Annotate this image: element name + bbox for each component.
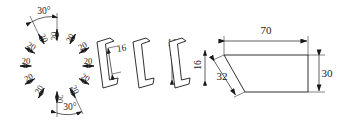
star-spoke-label: 20	[22, 71, 34, 84]
angle-dimension-top: 30°	[30, 6, 58, 34]
star-spoke-label: 20	[32, 83, 45, 95]
bracket-profile-1: 16	[97, 38, 127, 88]
star-spoke-label: 20	[84, 56, 93, 66]
angle-label-bottom: 30°	[63, 102, 77, 112]
star-spoke-label: 20	[79, 71, 91, 84]
bracket-1-dimension: 16	[108, 42, 127, 74]
trapezoid-left-label: 32	[217, 70, 228, 82]
trapezoid-right-dimension: 30	[308, 55, 333, 92]
trapezoid-right-label: 30	[322, 67, 334, 79]
trapezoid-top-dimension: 70	[224, 24, 308, 55]
star-spoke-label: 20	[64, 32, 77, 44]
angle-label-top: 30°	[37, 6, 51, 16]
trapezoid-top-label: 70	[261, 24, 273, 36]
technical-drawing-canvas: 20 20 20 20 20 20 20 20 20 20 20 20 30°	[0, 0, 337, 129]
bracket-3-label: 16	[193, 60, 203, 70]
figure-trapezoid: 70 30 32	[213, 24, 333, 97]
bracket-3-dimension: 16	[193, 50, 205, 80]
star-spoke-label: 20	[25, 39, 37, 52]
figure-bracket-profiles: 16 16 16	[97, 38, 205, 88]
figure-radial-star: 20 20 20 20 20 20 20 20 20 20 20 20 30°	[20, 6, 94, 117]
star-spoke-label: 20	[69, 83, 82, 95]
drawing-svg: 20 20 20 20 20 20 20 20 20 20 20 20 30°	[0, 0, 337, 129]
trapezoid-outline	[224, 55, 308, 92]
star-spoke-label: 20	[22, 56, 31, 66]
bracket-profile-3: 16	[169, 38, 205, 88]
star-spoke-label: 20	[76, 39, 88, 52]
bracket-1-label: 16	[116, 42, 127, 53]
